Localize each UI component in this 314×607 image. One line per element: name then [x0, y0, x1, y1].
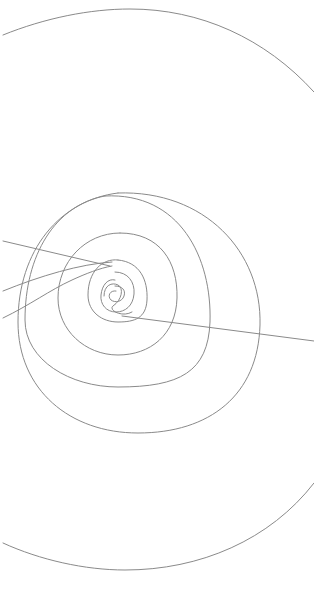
spiral-line-group — [3, 9, 314, 570]
spiral-core — [109, 286, 124, 302]
tangent-line-right — [122, 316, 314, 341]
outer-arc-top — [3, 9, 314, 92]
spiral-ring-3 — [58, 233, 177, 355]
spiral-ring-1 — [101, 272, 134, 312]
tangent-line-lower-left — [3, 266, 112, 318]
tangent-line-mid-left — [3, 262, 112, 291]
spiral-drawing-canvas — [0, 0, 314, 607]
spiral-ring-4 — [25, 196, 210, 387]
outer-arc-bottom — [3, 483, 314, 570]
tangent-line-upper-left — [3, 241, 110, 266]
spiral-ring-5 — [18, 193, 260, 433]
